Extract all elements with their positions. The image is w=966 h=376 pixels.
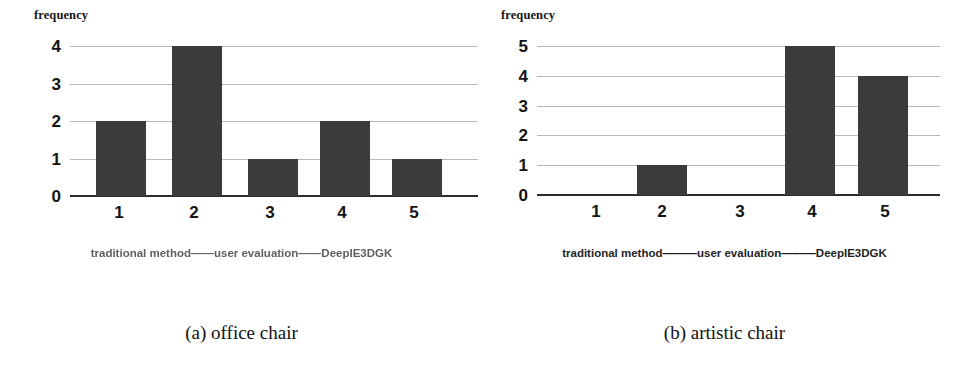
plot-area-artistic-chair: 5 4 3 2 1 0 1 2 3 4 5 xyxy=(537,46,940,195)
x-axis-scale-caption: traditional method——user evaluation——Dee… xyxy=(0,247,483,259)
x-tick-label-4: 4 xyxy=(807,203,816,220)
bar-series-artistic-chair xyxy=(537,46,940,195)
y-axis-title: frequency xyxy=(501,8,555,23)
x-tick-label-5: 5 xyxy=(409,204,418,221)
bar-series-office-chair xyxy=(70,46,478,196)
y-tick-label-0: 0 xyxy=(52,188,61,205)
x-tick-label-3: 3 xyxy=(265,204,274,221)
bar-category-2 xyxy=(637,165,687,195)
y-tick-label-3: 3 xyxy=(519,97,528,114)
sub-caption-b: (b) artistic chair xyxy=(483,322,966,344)
bar-category-1 xyxy=(96,121,146,196)
y-tick-label-1: 1 xyxy=(52,150,61,167)
bar-category-4 xyxy=(785,46,835,195)
x-tick-label-1: 1 xyxy=(114,204,123,221)
bar-category-4 xyxy=(320,121,370,196)
y-tick-label-4: 4 xyxy=(519,67,528,84)
sub-caption-a: (a) office chair xyxy=(0,322,483,344)
bar-category-5 xyxy=(392,159,442,197)
y-tick-label-4: 4 xyxy=(52,38,61,55)
bar-category-3 xyxy=(248,159,298,197)
y-axis-title: frequency xyxy=(34,8,88,23)
y-tick-label-1: 1 xyxy=(519,157,528,174)
x-tick-label-3: 3 xyxy=(735,203,744,220)
x-tick-label-5: 5 xyxy=(880,203,889,220)
y-tick-label-2: 2 xyxy=(519,127,528,144)
y-tick-label-2: 2 xyxy=(52,113,61,130)
x-tick-label-1: 1 xyxy=(591,203,600,220)
chart-panel-office-chair: frequency 4 3 2 1 0 1 xyxy=(0,0,483,376)
figure-root: frequency 4 3 2 1 0 1 xyxy=(0,0,966,376)
x-axis-scale-caption: traditional method———user evaluation———D… xyxy=(483,247,966,259)
plot-area-office-chair: 4 3 2 1 0 1 2 3 4 5 xyxy=(70,46,478,196)
chart-panel-artistic-chair: frequency 5 4 3 2 1 0 1 xyxy=(483,0,966,376)
y-tick-label-0: 0 xyxy=(519,187,528,204)
x-tick-label-2: 2 xyxy=(657,203,666,220)
y-tick-label-3: 3 xyxy=(52,75,61,92)
bar-category-5 xyxy=(858,76,908,195)
bar-category-2 xyxy=(172,46,222,196)
y-tick-label-5: 5 xyxy=(519,38,528,55)
x-tick-label-2: 2 xyxy=(189,204,198,221)
x-tick-label-4: 4 xyxy=(337,204,346,221)
